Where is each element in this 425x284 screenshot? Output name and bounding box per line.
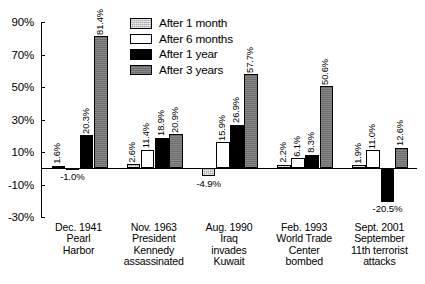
legend-swatch-after-6-months [130,34,152,45]
legend-item-after-1-year: After 1 year [130,47,233,62]
x-category-label-line: Harbor [35,245,122,256]
legend-label-after-3-years: After 3 years [159,63,223,77]
x-category-label: Aug. 1990IraqinvadesKuwait [185,222,272,268]
bar-group: 1.6%-1.0%20.3%81.4% [41,22,116,217]
x-category-label-line: attacks [336,256,423,267]
bar-value-label: 1.6% [53,143,62,164]
bar-value-label: 11.4% [142,123,151,148]
bar[interactable] [52,166,66,169]
legend-item-after-3-years: After 3 years [130,63,233,78]
x-category-label-line: bombed [261,256,348,267]
y-tick-label: 50% [0,87,34,99]
bar-value-label: 20.3% [82,108,91,134]
bar-value-label: -20.5% [363,203,411,214]
bar-value-label: 26.9% [232,97,241,123]
bar[interactable] [155,138,169,169]
bar-value-label: 2.6% [128,142,137,163]
legend-swatch-after-1-month [130,18,152,29]
legend-label-after-1-month: After 1 month [159,16,227,30]
bar[interactable] [395,148,409,168]
bar[interactable] [366,150,380,168]
bar[interactable] [94,36,108,168]
legend-swatch-after-1-year [130,49,152,60]
bar-value-label: 15.9% [218,115,227,141]
bar[interactable] [141,150,155,169]
bar[interactable] [381,168,395,201]
legend-item-after-6-months: After 6 months [130,32,233,47]
legend-label-after-6-months: After 6 months [159,32,233,46]
y-tick-label: 70% [0,55,34,67]
bar-value-label: 18.9% [157,110,166,136]
y-tick-label: 90% [0,22,34,34]
bar[interactable] [230,125,244,169]
y-tick-label: -30% [0,217,34,229]
bar-value-label: 6.1% [293,136,302,157]
bar-group: 2.2%6.1%8.3%50.6% [267,22,342,217]
legend-swatch-after-3-years [130,65,152,76]
bar-value-label: 2.2% [279,142,288,163]
bar[interactable] [127,164,141,168]
x-category-label: Dec. 1941PearlHarbor [35,222,122,256]
x-category-label-line: assassinated [110,256,197,267]
bar[interactable] [352,165,366,168]
legend-item-after-1-month: After 1 month [130,16,233,31]
bar[interactable] [244,74,258,168]
bar[interactable] [291,158,305,168]
chart-legend: After 1 month After 6 months After 1 yea… [130,16,233,78]
y-tick-label: 10% [0,152,34,164]
y-tick-mark [41,217,45,218]
bar-value-label: 12.6% [396,120,405,146]
x-category-label-line: Kuwait [185,256,272,267]
bar-value-label: 50.6% [321,59,330,85]
bar-value-label: 20.9% [171,107,180,133]
bar[interactable] [80,135,94,168]
bar[interactable] [169,134,183,168]
x-category-label: Feb. 1993World TradeCenterbombed [261,222,348,268]
bar-value-label: 1.9% [354,143,363,164]
bar-group: 1.9%11.0%-20.5%12.6% [342,22,417,217]
bar[interactable] [305,155,319,168]
bar-value-label: 81.4% [96,9,105,35]
bar-chart: 90%70%50%30%10%-10%-30% 1.6%-1.0%20.3%81… [0,0,425,284]
y-tick-label: -10% [0,185,34,197]
bar[interactable] [320,86,334,168]
bar-value-label: -1.0% [49,171,97,182]
bar[interactable] [277,165,291,169]
bar-value-label: 11.0% [368,124,377,149]
bar-value-label: 8.3% [307,132,316,153]
legend-label-after-1-year: After 1 year [159,47,218,61]
bar[interactable] [66,168,80,170]
x-category-label: Nov. 1963PresidentKennedyassassinated [110,222,197,268]
bar-value-label: 57.7% [246,47,255,73]
bar-value-label: -4.9% [185,178,233,189]
bar[interactable] [216,142,230,168]
y-tick-label: 30% [0,120,34,132]
x-category-label: Sept. 2001September11th terroristattacks [336,222,423,268]
bar[interactable] [202,168,216,176]
